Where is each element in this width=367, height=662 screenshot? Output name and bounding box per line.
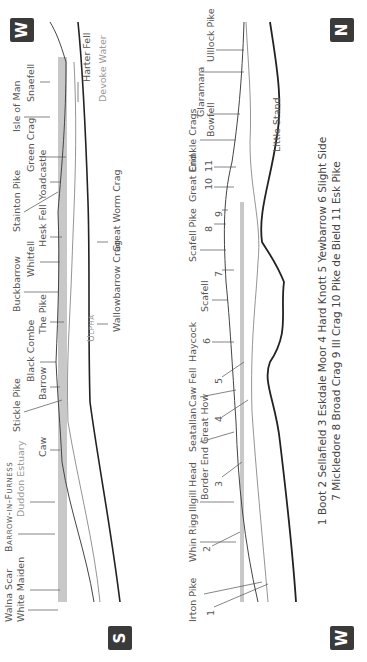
peak-label: Green Crag [26,118,36,172]
peak-label: Buckbarrow [12,256,22,312]
peak-label: 7 [214,271,224,277]
panorama-drawing [0,0,367,662]
peak-label: Little Stand [272,97,282,152]
peak-label: Duddon Estuary [16,441,26,517]
badge-label: S [111,633,129,644]
peak-label: Irton Pike [188,578,198,622]
peak-label: Border End [200,447,210,500]
peak-label: Isle of Man [12,81,22,132]
peak-label: Illgill Head [188,462,198,512]
compass-badge-west: W [10,18,34,42]
compass-badge-south: S [108,626,132,650]
peak-label: Glaramara [196,67,206,117]
peak-label: Haycock [188,322,198,362]
peak-label: Ulpha [86,314,96,342]
peak-label: Hesk Fell [38,204,48,247]
peak-label: Caw Fell [188,368,198,407]
sea-band [58,57,67,602]
peak-label: Devoke Water [98,35,108,102]
peak-label: 1 [206,610,216,616]
peak-label: 8 [204,226,214,232]
panorama-canvas: S W W N Walna ScarWhite MaidenBarrow-in-… [0,0,367,662]
peak-label: Barrow-in-Furness [4,462,14,552]
peak-label: 11 [204,160,214,172]
legend-line-2: 7 Mickledore 8 Broad Crag 9 Ill Crag 10 … [330,0,342,662]
peak-label: Snaefell [26,64,36,102]
peak-label: 10 [204,178,214,190]
peak-label: Yoadcastle [38,150,48,200]
peak-label: Caw [38,437,48,457]
peak-label: Wallowbarrow Crag [112,240,122,332]
peak-label: Great How [200,394,210,444]
peak-label: Walna Scar [4,569,14,622]
peak-label: 2 [202,546,212,552]
peak-label: 3 [214,481,224,487]
peak-label: White Maiden [16,557,26,622]
peak-label: Stainton Pike [12,170,22,232]
peak-label: 9 [214,211,224,217]
peak-label: Bowfell [206,102,216,137]
badge-label: W [13,22,31,39]
peak-label: Whin Rigg [188,514,198,562]
legend-line-1: 1 Boot 2 Sellafield 3 Eskdale Moor 4 Har… [316,0,328,662]
peak-label: Whitfell [26,241,36,277]
peak-label: Crinkle Crags [188,108,198,172]
peak-label: Scafell [200,280,210,312]
peak-label: 5 [214,378,224,384]
peak-label: Scafell Pike [188,208,198,262]
peak-label: The Pike [38,294,48,334]
peak-label: Black Combe [26,320,36,382]
peak-label: Harter Fell [82,33,92,82]
peak-label: Barrow [38,367,48,400]
peak-label: 4 [214,416,224,422]
peak-label: Seatallan [188,408,198,452]
peak-label: 6 [202,338,212,344]
peak-label: Great Worm Crag [112,169,122,252]
peak-label: Ulllock Pike [206,8,216,62]
peak-label: Stickle Pike [12,378,22,432]
